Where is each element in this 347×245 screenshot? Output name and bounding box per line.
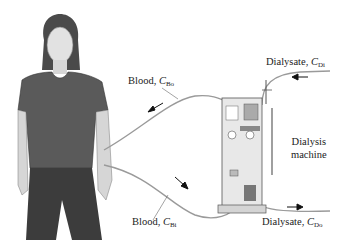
blood-in-tube	[104, 165, 237, 218]
dialysis-machine	[218, 80, 272, 213]
label-dialysate-in: Dialysate, CDi	[266, 57, 325, 69]
machine-label-line1: Dialysis	[291, 137, 327, 148]
hemodialysis-diagram	[0, 0, 347, 245]
dialysate-out-tube	[260, 205, 330, 211]
patient-figure	[18, 14, 112, 240]
label-blood-in: Blood, CBi	[132, 217, 177, 229]
label-blood-out: Blood, CBo	[128, 76, 174, 88]
blood-out-tube	[104, 96, 232, 150]
label-dialysate-out: Dialysate, CDo	[262, 217, 322, 229]
machine-label-line2: machine	[291, 150, 327, 161]
label-dialysis-machine: Dialysis machine	[291, 137, 327, 160]
